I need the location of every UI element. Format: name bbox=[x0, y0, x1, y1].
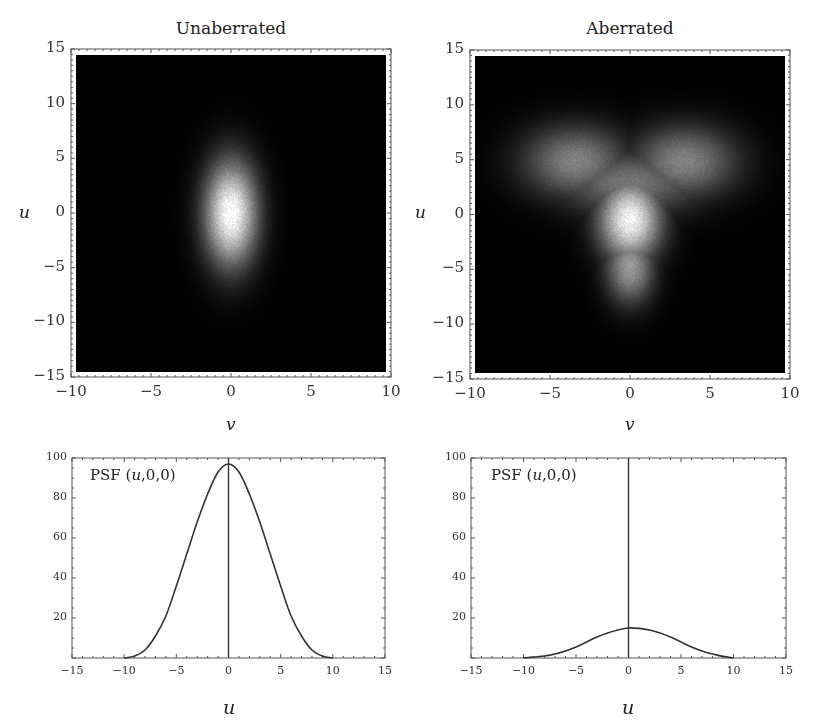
tick-label: 5 bbox=[705, 384, 715, 402]
tick-label: 5 bbox=[454, 149, 464, 167]
tick-label: 10 bbox=[780, 384, 799, 402]
psf-annotation-right: PSF (u,0,0) bbox=[491, 466, 577, 484]
tick-label: 0 bbox=[625, 384, 635, 402]
psf-prefix: PSF ( bbox=[90, 466, 131, 484]
tick-label: 15 bbox=[779, 664, 793, 677]
tick-label: −15 bbox=[60, 664, 83, 677]
tick-label: 100 bbox=[445, 450, 466, 463]
tick-label: −10 bbox=[33, 311, 65, 329]
tick-label: 60 bbox=[53, 530, 67, 543]
tick-label: −10 bbox=[432, 313, 464, 331]
tick-label: −15 bbox=[33, 366, 65, 384]
xlabel-top-right: v bbox=[625, 414, 635, 434]
tick-label: 15 bbox=[46, 38, 65, 56]
psf-annotation-left: PSF (u,0,0) bbox=[90, 466, 176, 484]
psf-suffix: ,0,0) bbox=[542, 466, 576, 484]
tick-label: 5 bbox=[678, 664, 685, 677]
tick-label: −5 bbox=[43, 257, 65, 275]
xlabel-top-left: v bbox=[226, 414, 236, 434]
tick-label: 20 bbox=[452, 610, 466, 623]
axes-frames bbox=[0, 0, 820, 727]
tick-label: −10 bbox=[113, 664, 136, 677]
tick-label: 10 bbox=[46, 93, 65, 111]
tick-label: 0 bbox=[226, 382, 236, 400]
tick-label: 0 bbox=[225, 664, 232, 677]
tick-label: −10 bbox=[55, 382, 87, 400]
xlabel-bottom-right: u bbox=[622, 696, 634, 718]
psf-suffix: ,0,0) bbox=[141, 466, 175, 484]
tick-label: −5 bbox=[168, 664, 184, 677]
tick-label: −10 bbox=[454, 384, 486, 402]
tick-label: 5 bbox=[306, 382, 316, 400]
tick-label: 0 bbox=[625, 664, 632, 677]
tick-label: 10 bbox=[727, 664, 741, 677]
tick-label: 0 bbox=[454, 204, 464, 222]
tick-label: −10 bbox=[512, 664, 535, 677]
tick-label: 80 bbox=[53, 490, 67, 503]
psf-var: u bbox=[131, 466, 141, 484]
tick-label: 5 bbox=[55, 147, 65, 165]
tick-label: 60 bbox=[452, 530, 466, 543]
tick-label: 15 bbox=[445, 39, 464, 57]
tick-label: 5 bbox=[277, 664, 284, 677]
tick-label: −5 bbox=[539, 384, 561, 402]
psf-var: u bbox=[532, 466, 542, 484]
tick-label: 40 bbox=[53, 570, 67, 583]
tick-label: 10 bbox=[326, 664, 340, 677]
tick-label: 10 bbox=[445, 94, 464, 112]
tick-label: 40 bbox=[452, 570, 466, 583]
tick-label: −15 bbox=[432, 368, 464, 386]
ylabel-top-left: u bbox=[19, 202, 30, 222]
ylabel-top-right: u bbox=[415, 202, 426, 222]
tick-label: 20 bbox=[53, 610, 67, 623]
xlabel-bottom-left: u bbox=[223, 696, 235, 718]
tick-label: −5 bbox=[568, 664, 584, 677]
tick-label: −15 bbox=[459, 664, 482, 677]
tick-label: 15 bbox=[378, 664, 392, 677]
tick-label: −5 bbox=[442, 258, 464, 276]
tick-label: 80 bbox=[452, 490, 466, 503]
tick-label: −5 bbox=[140, 382, 162, 400]
tick-label: 100 bbox=[46, 450, 67, 463]
psf-prefix: PSF ( bbox=[491, 466, 532, 484]
tick-label: 0 bbox=[55, 202, 65, 220]
tick-label: 10 bbox=[381, 382, 400, 400]
